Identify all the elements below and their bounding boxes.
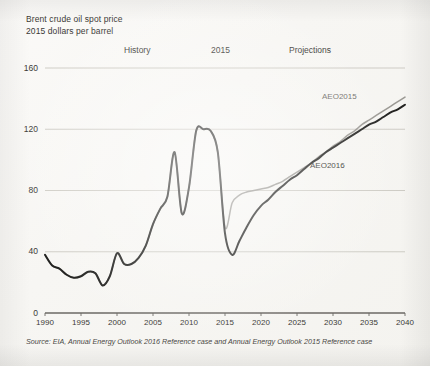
y-axis-tick-label: 80 (12, 185, 38, 195)
x-axis-tick-label: 2040 (388, 318, 422, 327)
x-axis-tick-label: 2025 (280, 318, 314, 327)
y-axis-tick-label: 0 (12, 308, 38, 318)
x-axis-tick-label: 2020 (244, 318, 278, 327)
series-line-aeo2015 (45, 97, 405, 285)
x-axis-tick-label: 2035 (352, 318, 386, 327)
chart-source-note: Source: EIA, Annual Energy Outlook 2016 … (26, 337, 372, 346)
x-axis-tick-label: 2010 (172, 318, 206, 327)
x-axis-tick-label: 1990 (28, 318, 62, 327)
y-axis-tick-label: 160 (12, 63, 38, 73)
series-line-aeo2016 (45, 105, 405, 286)
chart-page: Brent crude oil spot price 2015 dollars … (0, 0, 430, 366)
x-axis-tick-label: 2030 (316, 318, 350, 327)
x-axis-tick-label: 2000 (100, 318, 134, 327)
y-axis-tick-label: 40 (12, 246, 38, 256)
series-label-aeo2015: AEO2015 (322, 92, 357, 101)
chart-plot-area (0, 0, 430, 366)
x-axis-tick-label: 1995 (64, 318, 98, 327)
y-axis-tick-label: 120 (12, 124, 38, 134)
x-axis-tick-label: 2015 (208, 318, 242, 327)
x-axis-tick-label: 2005 (136, 318, 170, 327)
series-label-aeo2016: AEO2016 (310, 161, 345, 170)
